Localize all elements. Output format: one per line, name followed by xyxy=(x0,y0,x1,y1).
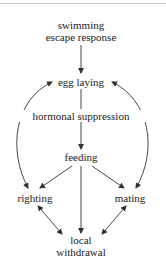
node-egg-laying: egg laying xyxy=(31,76,131,88)
edge-label-hormonal-suppression: hormonal suppression xyxy=(16,110,146,122)
edge-feeding-righting xyxy=(40,166,72,188)
edge-mating-egglaying xyxy=(112,82,148,188)
edge-righting-egglaying xyxy=(17,82,52,188)
node-righting: righting xyxy=(5,192,65,204)
node-swimming-line1: swimming xyxy=(31,19,131,31)
node-swimming-line2: escape response xyxy=(31,31,131,43)
edge-mating-local xyxy=(102,206,126,234)
node-mating: mating xyxy=(100,192,160,204)
edge-righting-local xyxy=(38,206,62,234)
node-feeding: feeding xyxy=(31,151,131,163)
edge-feeding-mating xyxy=(92,166,124,188)
node-local-line2: withdrawal xyxy=(31,246,131,258)
node-local-line1: local xyxy=(31,234,131,246)
